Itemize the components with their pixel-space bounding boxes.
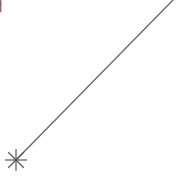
diagram-canvas — [0, 0, 179, 185]
diagonal-edge-line — [16, 0, 173, 160]
asterisk-marker-icon — [5, 149, 27, 171]
